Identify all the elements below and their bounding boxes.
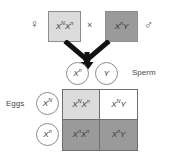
cell-2-allele-1: N [117, 98, 121, 104]
sperm-gamete-circle-2: Y [95, 62, 118, 85]
female-symbol-icon: ♀ [30, 18, 39, 30]
cell-1-allele-2: n [87, 98, 90, 104]
cross-symbol: × [87, 21, 92, 30]
punnett-cell-3: XnXn [63, 120, 100, 150]
mother-genotype-label: XNXn [56, 23, 74, 31]
sperm-gamete-label-2: Y [104, 70, 109, 78]
cell-4-allele-1: n [117, 128, 120, 134]
punnett-cell-label-2: XNY [111, 101, 126, 109]
egg-gamete-circle-1: XN [36, 92, 59, 115]
punnett-cell-1: XNXn [63, 90, 100, 120]
father-genotype-box: XnY [105, 11, 138, 42]
mother-allele-1: N [61, 20, 65, 26]
punnett-cell-label-3: XnXn [73, 131, 90, 139]
mother-genotype-box: XNXn [48, 11, 81, 42]
punnett-cell-4: XnY [100, 120, 137, 150]
egg-allele-2: n [49, 128, 52, 134]
sperm-label: Sperm [132, 69, 156, 77]
sperm-allele-1: n [79, 67, 82, 73]
sperm-gamete-circle-1: Xn [66, 62, 89, 85]
eggs-label: Eggs [6, 100, 24, 108]
mother-allele-2: n [70, 20, 73, 26]
father-genotype-label: XnY [115, 23, 129, 31]
punnett-cell-label-4: XnY [112, 131, 126, 139]
father-allele-1: n [120, 20, 123, 26]
punnett-cell-2: XNY [100, 90, 137, 120]
egg-gamete-label-1: XN [43, 100, 52, 108]
cell-3-allele-2: n [86, 128, 89, 134]
egg-gamete-circle-2: Xn [36, 123, 59, 146]
sperm-gamete-label-1: Xn [73, 70, 81, 78]
egg-gamete-label-2: Xn [43, 131, 51, 139]
cell-3-allele-1: n [78, 128, 81, 134]
punnett-square-diagram: ♀ XNXn × XnY ♂ Xn Y Sperm Eggs XN Xn XNX… [0, 0, 169, 167]
punnett-square-grid: XNXn XNY XnXn XnY [62, 89, 138, 151]
punnett-cell-label-1: XNXn [72, 101, 90, 109]
egg-allele-1: N [48, 97, 52, 103]
cell-1-allele-1: N [77, 98, 81, 104]
male-symbol-icon: ♂ [144, 19, 153, 31]
